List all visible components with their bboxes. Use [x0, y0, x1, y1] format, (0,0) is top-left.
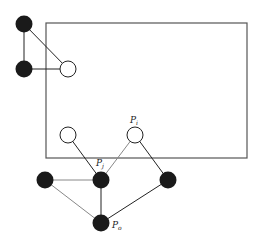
node-pi — [127, 127, 143, 143]
node-pj — [93, 172, 110, 189]
node-black — [160, 172, 177, 189]
label-pj: Pj — [95, 158, 104, 170]
region-rectangle — [46, 23, 247, 158]
nodes — [16, 16, 177, 232]
node-po — [93, 215, 110, 232]
label-po: Po — [111, 220, 122, 231]
graph-diagram: Pi Pj Po — [0, 0, 261, 246]
node-white — [60, 61, 76, 77]
node-black — [37, 172, 54, 189]
node-black — [16, 16, 33, 33]
node-white — [60, 127, 76, 143]
node-black — [16, 61, 33, 78]
edge-r-po — [101, 180, 168, 223]
edge-l-po — [45, 180, 101, 223]
label-pi: Pi — [129, 115, 138, 126]
